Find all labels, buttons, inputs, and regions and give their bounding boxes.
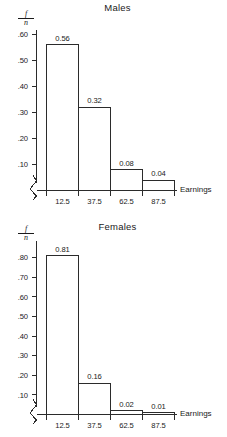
bar-females-0 [47, 256, 79, 415]
x-tick-label-males-3: 87.5 [142, 197, 176, 206]
bar-label-males-2: 0.08 [110, 159, 144, 168]
bar-males-3 [143, 180, 175, 190]
bar-males-0 [47, 45, 79, 191]
bar-label-males-3: 0.04 [142, 169, 176, 178]
axis-break-icon [30, 399, 37, 424]
y-tick-label-males-50: .50 [6, 56, 28, 65]
bar-label-females-1: 0.16 [78, 372, 112, 381]
bar-females-2 [111, 411, 143, 415]
x-axis-title-females: Earnings [180, 409, 212, 418]
y-tick-label-females-60: .60 [6, 293, 28, 302]
bar-label-females-0: 0.81 [46, 245, 80, 254]
y-tick-label-males-60: .60 [6, 30, 28, 39]
bar-females-3 [143, 413, 175, 415]
y-tick-label-males-30: .30 [6, 108, 28, 117]
y-tick-label-females-50: .50 [6, 312, 28, 321]
bar-males-1 [79, 107, 111, 190]
y-tick-label-males-40: .40 [6, 82, 28, 91]
x-tick-label-females-0: 12.5 [46, 421, 80, 430]
bar-females-1 [79, 383, 111, 414]
bar-label-males-0: 0.56 [46, 34, 80, 43]
x-tick-label-males-1: 37.5 [78, 197, 112, 206]
bar-label-females-3: 0.01 [142, 402, 176, 411]
x-tick-label-females-3: 87.5 [142, 421, 176, 430]
y-tick-label-males-20: .20 [6, 134, 28, 143]
x-tick-label-females-2: 62.5 [110, 421, 144, 430]
y-tick-label-females-10: .10 [6, 391, 28, 400]
x-axis-title-males: Earnings [180, 185, 212, 194]
y-tick-label-females-20: .20 [6, 371, 28, 380]
x-tick-label-females-1: 37.5 [78, 421, 112, 430]
x-tick-label-males-0: 12.5 [46, 197, 80, 206]
axis-break-icon [30, 175, 37, 200]
bar-label-males-1: 0.32 [78, 96, 112, 105]
bar-males-2 [111, 170, 143, 191]
y-tick-label-females-40: .40 [6, 332, 28, 341]
y-tick-label-females-30: .30 [6, 351, 28, 360]
y-tick-label-males-10: .10 [6, 160, 28, 169]
bar-label-females-2: 0.02 [110, 400, 144, 409]
y-tick-label-females-70: .70 [6, 273, 28, 282]
chart-females: Females f n [0, 219, 227, 437]
chart-males: Males f n [0, 0, 227, 218]
x-tick-label-males-2: 62.5 [110, 197, 144, 206]
y-tick-label-females-80: .80 [6, 253, 28, 262]
